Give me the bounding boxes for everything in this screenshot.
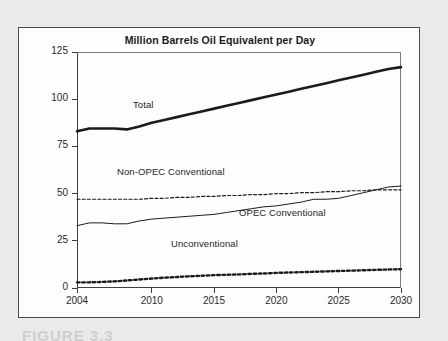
series-line-opec-conventional — [77, 186, 401, 226]
y-tick-label: 100 — [51, 92, 68, 103]
y-tick-label: 0 — [62, 281, 68, 292]
x-tick-label: 2025 — [328, 295, 350, 306]
y-tick-mark — [72, 52, 77, 53]
figure-box: Million Barrels Oil Equivalent per Day 0… — [18, 27, 420, 318]
y-tick-label: 125 — [51, 45, 68, 56]
x-tick-mark — [214, 288, 215, 293]
figure-caption-sliver: FIGURE 3.3 — [22, 330, 172, 341]
x-tick-label: 2030 — [390, 295, 412, 306]
x-tick-mark — [401, 288, 402, 293]
y-tick-label: 50 — [57, 187, 68, 198]
y-tick-mark — [72, 240, 77, 241]
y-tick-label: 25 — [57, 234, 68, 245]
y-tick-label: 75 — [57, 139, 68, 150]
x-tick-label: 2020 — [265, 295, 287, 306]
y-tick-mark — [72, 99, 77, 100]
x-tick-label: 2010 — [141, 295, 163, 306]
x-tick-mark — [338, 288, 339, 293]
x-tick-mark — [77, 288, 78, 293]
y-tick-mark — [72, 193, 77, 194]
series-line-non-opec-conventional — [77, 190, 401, 199]
y-tick-mark — [72, 146, 77, 147]
series-label-total: Total — [133, 99, 154, 110]
chart-title: Million Barrels Oil Equivalent per Day — [19, 34, 421, 46]
series-line-total — [77, 67, 401, 131]
series-line-unconventional — [77, 269, 401, 282]
plot-area: 0255075100125 200420102015202020252030 T… — [77, 52, 401, 288]
series-label-unconventional: Unconventional — [171, 238, 238, 249]
series-label-non-opec: Non-OPEC Conventional — [117, 166, 225, 177]
figure-root: Million Barrels Oil Equivalent per Day 0… — [0, 0, 448, 341]
x-tick-label: 2004 — [66, 295, 88, 306]
x-tick-mark — [151, 288, 152, 293]
x-tick-mark — [276, 288, 277, 293]
x-tick-label: 2015 — [203, 295, 225, 306]
series-label-opec: OPEC Conventional — [239, 207, 326, 218]
